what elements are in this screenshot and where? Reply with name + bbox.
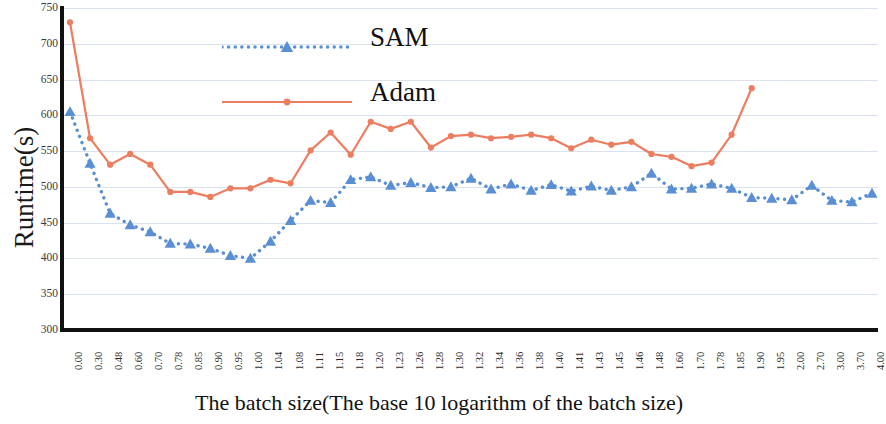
legend-label: SAM [370,22,429,53]
data-point-marker [87,135,93,141]
x-tick-label: 0.70 [154,352,165,370]
data-point-marker [405,177,416,187]
data-point-marker [485,183,496,193]
data-point-marker [125,219,136,229]
data-point-marker [67,19,73,25]
x-tick-label: 1.04 [274,352,285,370]
x-axis-title: The batch size(The base 10 logarithm of … [0,390,878,416]
data-point-marker [207,194,213,200]
x-tick-label: 1.20 [375,352,386,370]
x-tick-label: 0.85 [194,352,205,370]
data-point-marker [127,151,133,157]
x-tick-label: 1.08 [295,352,306,370]
data-point-marker [205,243,216,253]
data-point-marker [626,181,637,191]
x-tick-label: 0.90 [214,352,225,370]
legend-item-adam[interactable]: Adam [222,83,482,117]
x-tick-label: 1.90 [756,352,767,370]
data-point-marker [187,189,193,195]
data-point-marker [408,119,414,125]
x-tick-label: 0.95 [234,352,245,370]
x-tick-label: 1.45 [615,352,626,370]
data-point-marker [688,163,694,169]
chart-legend: SAMAdam [222,28,482,114]
x-tick-label: 1.32 [475,352,486,370]
x-tick-label: 0.30 [94,352,105,370]
data-point-marker [107,162,113,168]
data-point-marker [428,144,434,150]
data-point-marker [749,85,755,91]
data-point-marker [104,208,115,218]
legend-key-adam [222,95,352,105]
x-tick-label: 1.36 [515,352,526,370]
x-tick-label: 1.11 [315,352,326,370]
data-point-marker [145,226,156,236]
x-axis-tick-labels: 0.000.300.480.600.700.780.850.900.951.00… [64,336,878,382]
data-point-marker [267,177,273,183]
data-point-marker [388,126,394,132]
data-point-marker [568,145,574,151]
data-point-marker [445,181,456,191]
x-axis-line [60,328,878,332]
data-point-marker [425,182,436,192]
x-tick-label: 1.46 [635,352,646,370]
data-point-marker [448,133,454,139]
data-point-marker [648,151,654,157]
data-point-marker [806,180,817,190]
x-tick-label: 0.60 [134,352,145,370]
x-tick-label: 1.60 [675,352,686,370]
y-tick-label: 450 [24,217,58,229]
x-tick-label: 1.00 [254,352,265,370]
data-point-marker [628,139,634,145]
x-tick-label: 1.18 [355,352,366,370]
x-tick-label: 1.23 [395,352,406,370]
data-point-marker [385,180,396,190]
y-tick-label: 700 [24,38,58,50]
data-point-marker [608,142,614,148]
y-tick-label: 500 [24,181,58,193]
x-tick-label: 2.00 [796,352,807,370]
data-point-marker [505,178,516,188]
data-point-marker [167,189,173,195]
data-point-marker [708,159,714,165]
y-tick-label: 750 [24,2,58,14]
data-point-marker [508,134,514,140]
data-point-marker [368,119,374,125]
x-tick-label: 0.78 [174,352,185,370]
data-point-marker [328,129,334,135]
data-point-marker [225,250,236,260]
x-tick-label: 1.15 [335,352,346,370]
data-point-marker [305,195,316,205]
data-point-marker [468,132,474,138]
x-tick-label: 3.00 [836,352,847,370]
x-tick-label: 1.30 [455,352,466,370]
x-tick-label: 1.38 [535,352,546,370]
x-tick-label: 1.95 [776,352,787,370]
data-point-marker [766,193,777,203]
x-tick-label: 1.40 [555,352,566,370]
data-point-marker [285,215,296,225]
x-tick-label: 1.85 [736,352,747,370]
x-tick-label: 1.41 [575,352,586,370]
data-point-marker [147,162,153,168]
data-point-marker [227,185,233,191]
x-tick-label: 0.48 [114,352,125,370]
y-tick-label: 600 [24,109,58,121]
x-tick-label: 1.26 [415,352,426,370]
x-tick-label: 4.00 [876,352,886,370]
y-tick-label: 650 [24,74,58,86]
y-axis-tick-labels: 750700650600550500450400350300 [24,0,58,340]
data-point-marker [64,106,75,116]
data-point-marker [729,132,735,138]
legend-item-sam[interactable]: SAM [222,28,482,62]
data-point-marker [548,135,554,141]
x-tick-label: 1.70 [696,352,707,370]
data-point-marker [307,147,313,153]
data-point-marker [586,181,597,191]
data-point-marker [588,137,594,143]
y-axis-line [60,6,64,332]
y-tick-label: 400 [24,252,58,264]
data-point-marker [646,168,657,178]
x-tick-label: 1.78 [716,352,727,370]
